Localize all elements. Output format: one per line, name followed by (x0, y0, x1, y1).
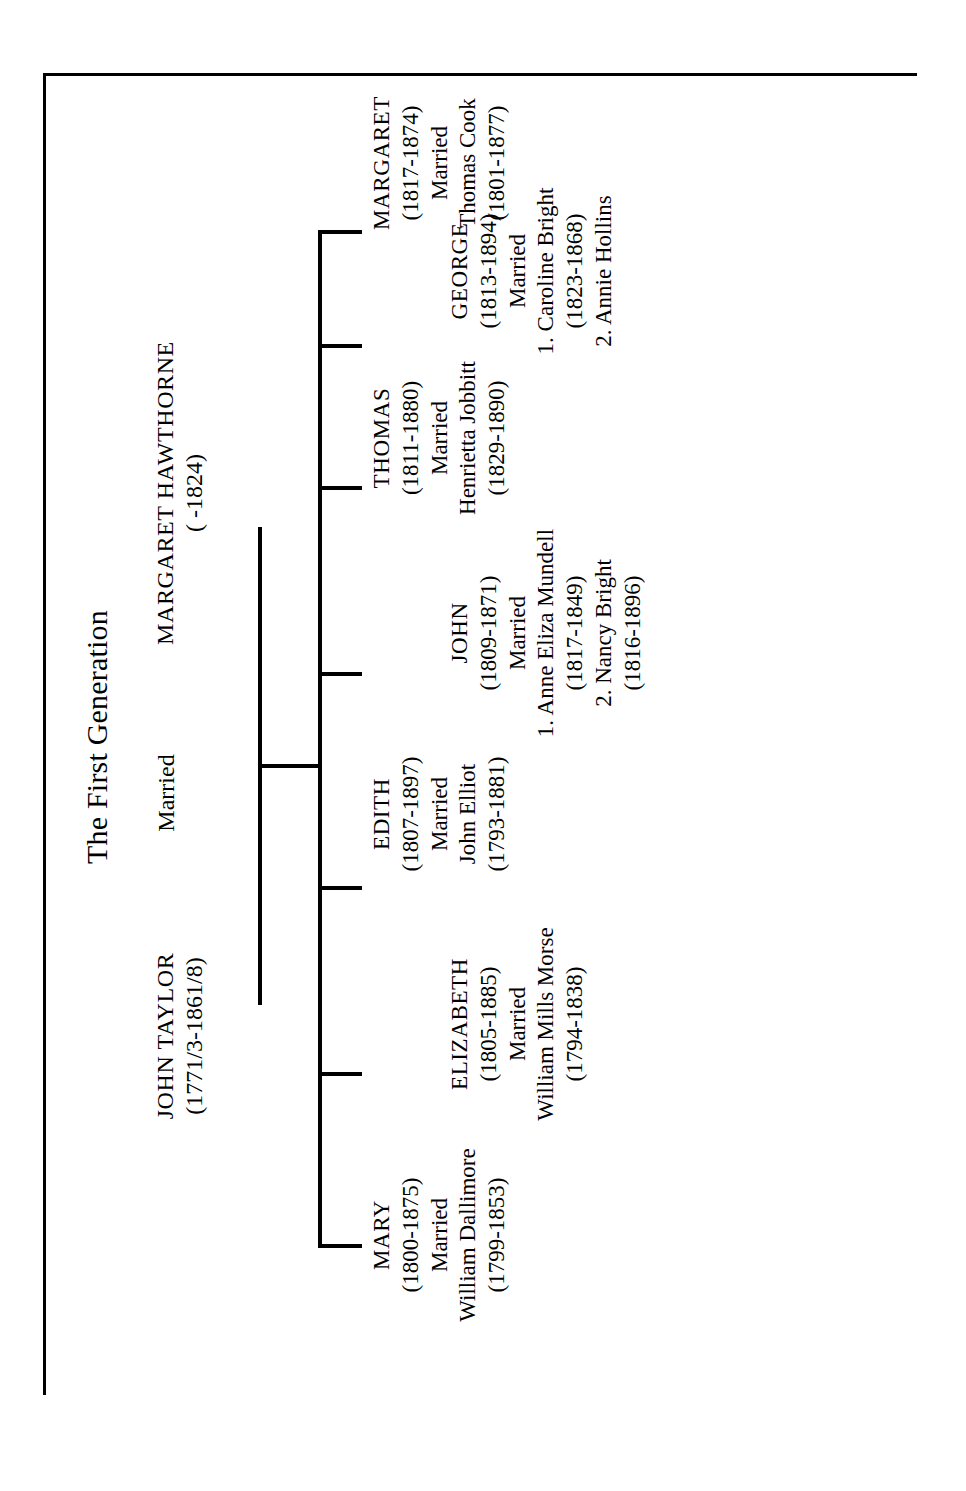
child-dates: (1809-1871) (475, 508, 504, 758)
child-dates: (1807-1897) (397, 714, 426, 914)
child-spouse-2-name: 2. Nancy Bright (590, 508, 619, 758)
child-dates: (1805-1885) (475, 886, 504, 1162)
child-spouse-list: 1. Anne Eliza Mundell (1817-1849) 2. Nan… (532, 508, 647, 758)
child-name: JOHN (446, 508, 475, 758)
child-card-margaret: MARGARET (1817-1874) Married Thomas Cook… (368, 76, 512, 258)
child-married-label: Married (504, 508, 533, 758)
mother-name: MARGARET HAWTHORNE (151, 278, 180, 708)
parents-row: JOHN TAYLOR (1771/3-1861/8) Married MARG… (151, 76, 247, 1398)
chart-title: The First Generation (80, 76, 114, 1398)
child-name: EDITH (368, 714, 397, 914)
child-married-label: Married (504, 886, 533, 1162)
child-name: ELIZABETH (446, 886, 475, 1162)
descent-line (258, 764, 320, 768)
sibling-tick-thomas (318, 486, 362, 490)
child-spouse-dates: (1794-1838) (561, 886, 590, 1162)
parent-mother: MARGARET HAWTHORNE ( -1824) (151, 278, 210, 708)
child-spouse-1-name: 1. Caroline Bright (532, 156, 561, 386)
child-name: THOMAS (368, 332, 397, 544)
child-dates: (1800-1875) (397, 1110, 426, 1360)
mother-dates: ( -1824) (180, 278, 209, 708)
chart-rotation-wrapper: The First Generation JOHN TAYLOR (1771/3… (46, 76, 920, 1398)
child-card-john: JOHN (1809-1871) Married 1. Anne Eliza M… (446, 508, 647, 758)
child-spouse-2-name: 2. Annie Hollins (590, 156, 619, 386)
child-spouse-list: 1. Caroline Bright (1823-1868) 2. Annie … (532, 156, 618, 386)
sibling-tick-george (318, 344, 362, 348)
child-spouse-1-name: 1. Anne Eliza Mundell (532, 508, 561, 758)
parents-married-label: Married (153, 728, 180, 858)
child-spouse-2-dates: (1816-1896) (619, 508, 648, 758)
child-spouse-name: William Mills Morse (532, 886, 561, 1162)
sibling-tick-elizabeth (318, 1072, 362, 1076)
child-married-label: Married (426, 76, 455, 258)
child-dates: (1817-1874) (397, 76, 426, 258)
child-name: MARGARET (368, 76, 397, 258)
child-dates: (1811-1880) (397, 332, 426, 544)
parent-father: JOHN TAYLOR (1771/3-1861/8) (151, 886, 210, 1186)
child-spouse-1-dates: (1823-1868) (561, 156, 590, 386)
genealogy-chart: The First Generation JOHN TAYLOR (1771/3… (46, 76, 920, 1398)
child-name: MARY (368, 1110, 397, 1360)
father-dates: (1771/3-1861/8) (180, 886, 209, 1186)
page-border: The First Generation JOHN TAYLOR (1771/3… (43, 73, 917, 1395)
child-spouse-1-dates: (1817-1849) (561, 508, 590, 758)
sibling-tick-margaret (318, 230, 362, 234)
child-card-elizabeth: ELIZABETH (1805-1885) Married William Mi… (446, 886, 590, 1162)
child-spouse-name: Thomas Cook (454, 76, 483, 258)
sibling-bar (318, 230, 322, 1248)
sibling-tick-edith (318, 886, 362, 890)
sibling-tick-mary (318, 1244, 362, 1248)
father-name: JOHN TAYLOR (151, 886, 180, 1186)
sibling-tick-john (318, 672, 362, 676)
child-spouse-dates: (1801-1877) (483, 76, 512, 258)
